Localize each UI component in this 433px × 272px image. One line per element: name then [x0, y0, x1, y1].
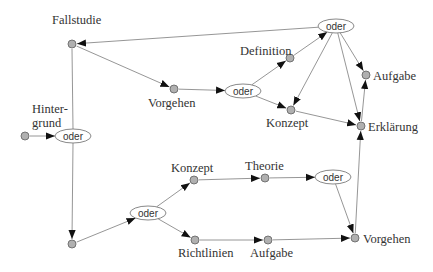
node-label-hintergrund: Hinter-	[32, 102, 68, 116]
node-label-richtlinien: Richtlinien	[178, 246, 234, 260]
node-label-fallstudie: Fallstudie	[52, 13, 102, 27]
edge-aufgabe-bottom-to-vorgehen-bottom	[273, 238, 350, 240]
edge-oder-top-to-aufgabe-top	[340, 33, 363, 71]
node-aufgabe-bottom	[264, 236, 272, 244]
edge-oder-bottom-to-konzept-bottom	[157, 183, 190, 207]
oder-label: oder	[63, 131, 84, 142]
oder-node-oder-top: oder	[318, 19, 354, 33]
edge-oder-left-bottom-left	[72, 143, 73, 239]
node-fallstudie	[68, 40, 76, 48]
edge-bottom-left-to-oder-bottom	[77, 218, 136, 242]
edge-erklaerung-to-aufgabe-top	[361, 80, 365, 121]
node-konzept-top	[287, 106, 295, 114]
node-theorie	[261, 174, 269, 182]
node-vorgehen-mid	[170, 85, 178, 93]
oder-node-oder-left: oder	[55, 129, 91, 143]
node-aufgabe-top	[362, 71, 370, 79]
node-hintergrund	[21, 132, 29, 140]
node-label-konzept-top: Konzept	[266, 116, 309, 130]
node-label-konzept-bottom: Konzept	[171, 161, 214, 175]
edge-oder-lower-right-to-vorgehen-bottom	[336, 184, 354, 233]
node-konzept-bottom	[190, 176, 198, 184]
edge-oder-bottom-to-richtlinien	[158, 219, 191, 238]
oder-label: oder	[138, 208, 159, 219]
edge-vorgehen-mid-to-oder-mid	[179, 89, 225, 90]
oder-node-oder-bottom: oder	[130, 206, 166, 220]
flow-diagram: oderoderoderoderoder FallstudieHinter-gr…	[0, 0, 433, 272]
edge-fallstudie-to-vorgehen-mid	[77, 46, 170, 87]
oder-label: oder	[326, 21, 347, 32]
node-label-aufgabe-top: Aufgabe	[373, 69, 416, 83]
node-bottom-left	[68, 240, 76, 248]
node-label-definition: Definition	[240, 44, 292, 58]
node-label-theorie: Theorie	[245, 159, 284, 173]
edge-vorgehen-bottom-to-erklaerung	[355, 131, 360, 233]
edge-oder-top-to-konzept-top	[293, 33, 332, 106]
edge-oder-top-to-fallstudie	[77, 27, 318, 43]
edge-fallstudie-oder-left	[72, 49, 73, 129]
edge-theorie-to-oder-lower-right	[270, 177, 315, 178]
node-vorgehen-bottom	[351, 234, 359, 242]
node-label-erklaerung: Erklärung	[368, 120, 419, 134]
edge-konzept-bottom-to-theorie	[199, 178, 260, 180]
oder-label: oder	[323, 172, 344, 183]
node-label-vorgehen-mid: Vorgehen	[148, 96, 196, 110]
node-label-hintergrund-line2: grund	[32, 116, 62, 130]
nodes: oderoderoderoderoder	[21, 19, 370, 248]
node-label-vorgehen-bottom: Vorgehen	[363, 232, 411, 246]
node-label-aufgabe-bottom: Aufgabe	[250, 246, 293, 260]
oder-node-oder-mid: oder	[225, 84, 261, 98]
node-erklaerung	[357, 122, 365, 130]
edge-oder-mid-to-konzept-top	[256, 96, 287, 108]
node-richtlinien	[191, 236, 199, 244]
oder-node-oder-lower-right: oder	[315, 170, 351, 184]
oder-label: oder	[233, 86, 254, 97]
edge-oder-mid-to-definition	[252, 61, 286, 85]
